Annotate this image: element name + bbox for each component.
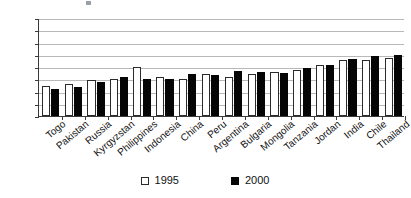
- bar-2000-indonesia: [165, 79, 173, 116]
- bar-group: [199, 19, 222, 116]
- bar-group: [268, 19, 291, 116]
- x-axis-labels: TogoPakistanRussiaKyrgyzstanPhilippinesI…: [38, 119, 404, 171]
- bar-group: [39, 19, 62, 116]
- bar-2000-chile: [371, 56, 379, 116]
- scan-artifact: [86, 1, 91, 5]
- plot-area: 3045607590105120135150: [38, 19, 404, 117]
- bar-1995-mongolia: [270, 72, 278, 116]
- bar-2000-kyrgyzstan: [120, 77, 128, 116]
- legend-swatch-2000: [231, 177, 239, 185]
- bar-group: [85, 19, 108, 116]
- bar-1995-kyrgyzstan: [110, 79, 118, 116]
- bar-1995-russia: [87, 80, 95, 116]
- x-tick-label-china: China: [179, 119, 205, 143]
- bar-1995-pakistan: [65, 84, 73, 116]
- bar-2000-russia: [97, 82, 105, 116]
- bar-1995-indonesia: [156, 77, 164, 116]
- bar-1995-china: [179, 79, 187, 116]
- bar-2000-peru: [211, 75, 219, 116]
- bar-2000-pakistan: [74, 87, 82, 116]
- legend-entry-1995: 1995: [141, 175, 179, 186]
- bar-group: [176, 19, 199, 116]
- bar-1995-tanzania: [293, 70, 301, 116]
- bar-2000-philippines: [143, 79, 151, 116]
- chart-legend: 19952000: [0, 175, 410, 186]
- bar-1995-togo: [42, 86, 50, 116]
- legend-label-1995: 1995: [155, 175, 179, 186]
- bar-group: [336, 19, 359, 116]
- bar-group: [314, 19, 337, 116]
- bar-group: [222, 19, 245, 116]
- bar-2000-togo: [51, 89, 59, 116]
- legend-swatch-1995: [141, 177, 149, 185]
- bar-group: [62, 19, 85, 116]
- bar-2000-india: [348, 59, 356, 116]
- bar-2000-tanzania: [303, 68, 311, 116]
- y-tick-mark: [35, 117, 39, 118]
- bar-group: [359, 19, 382, 116]
- bar-1995-peru: [202, 74, 210, 116]
- bar-group: [291, 19, 314, 116]
- bar-group: [245, 19, 268, 116]
- bar-1995-india: [339, 60, 347, 116]
- bar-group: [108, 19, 131, 116]
- bar-1995-argentina: [225, 77, 233, 116]
- bar-1995-thailand: [385, 58, 393, 116]
- bar-1995-chile: [362, 60, 370, 116]
- bar-2000-china: [188, 74, 196, 116]
- bar-2000-jordan: [326, 65, 334, 116]
- bar-2000-thailand: [394, 55, 402, 116]
- bar-group: [382, 19, 405, 116]
- bar-2000-bulgaria: [257, 72, 265, 116]
- bar-1995-jordan: [316, 65, 324, 116]
- bar-1995-bulgaria: [248, 74, 256, 116]
- legend-entry-2000: 2000: [231, 175, 269, 186]
- bar-2000-argentina: [234, 71, 242, 116]
- bars-layer: [39, 19, 404, 116]
- bar-group: [153, 19, 176, 116]
- x-tick-label-india: India: [342, 119, 365, 141]
- legend-label-2000: 2000: [245, 175, 269, 186]
- bar-1995-philippines: [133, 67, 141, 116]
- bar-group: [131, 19, 154, 116]
- bar-2000-mongolia: [280, 73, 288, 116]
